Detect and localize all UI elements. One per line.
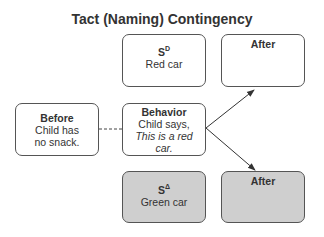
sdelta-box: SΔ Green car [122,171,206,223]
sdelta-text: Green car [123,196,205,208]
sd-box: SD Red car [122,34,206,87]
after-bottom-heading: After [222,175,304,187]
sd-symbol: SD [123,46,205,58]
behavior-line3: car. [123,142,205,154]
behavior-line1: Child says, [123,118,205,130]
behavior-line2: This is a red [123,130,205,142]
before-line2: no snack. [16,136,98,148]
after-top-box: After [221,34,305,87]
after-bottom-box: After [221,171,305,223]
after-top-heading: After [222,38,304,50]
before-line1: Child has [16,124,98,136]
sdelta-symbol: SΔ [123,184,205,196]
arrow-to-after-bottom [206,128,255,170]
behavior-heading: Behavior [123,106,205,118]
before-heading: Before [16,112,98,124]
arrow-to-after-top [206,90,254,128]
before-box: Before Child has no snack. [15,103,99,156]
behavior-box: Behavior Child says, This is a red car. [122,103,206,156]
sd-text: Red car [123,58,205,70]
